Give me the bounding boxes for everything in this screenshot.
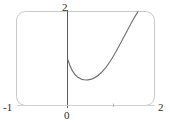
plot-canvas — [0, 0, 170, 123]
origin-label: 0 — [64, 110, 70, 121]
y-axis-max-label: 2 — [62, 2, 68, 13]
plot-figure: 2 -1 2 0 — [0, 0, 170, 123]
x-axis-max-label: 2 — [158, 102, 164, 113]
x-axis-min-label: -1 — [3, 102, 12, 113]
plot-frame — [17, 12, 155, 106]
